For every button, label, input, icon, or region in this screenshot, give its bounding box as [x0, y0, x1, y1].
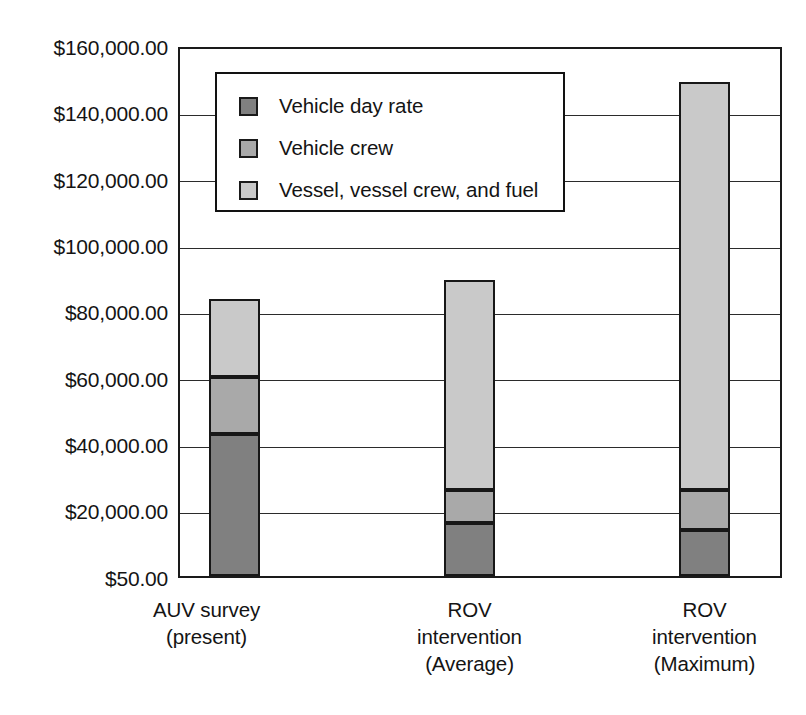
stacked-bar-chart: $160,000.00 $140,000.00 $120,000.00 $100… — [0, 0, 806, 715]
bar-rov-intervention-maximum — [679, 82, 730, 576]
legend-label: Vessel, vessel crew, and fuel — [279, 180, 538, 201]
x-category-line: AUV survey — [99, 596, 314, 623]
x-category-line: ROV — [362, 596, 577, 623]
legend-label: Vehicle crew — [279, 138, 393, 159]
legend-swatch-icon — [239, 181, 258, 200]
bar-segment-vehicle-crew — [679, 490, 730, 530]
y-tick-label: $40,000.00 — [28, 435, 168, 456]
x-category-label-auv-survey: AUV survey (present) — [99, 596, 314, 650]
x-category-line: intervention — [362, 623, 577, 650]
bar-segment-vehicle-crew — [444, 490, 495, 523]
y-tick-label: $80,000.00 — [28, 302, 168, 323]
bar-rov-intervention-average — [444, 280, 495, 576]
legend-item-vessel-crew-fuel: Vessel, vessel crew, and fuel — [217, 169, 563, 211]
bar-auv-survey — [209, 299, 260, 576]
y-tick-label: $160,000.00 — [28, 37, 168, 58]
bar-segment-vehicle-day-rate — [444, 523, 495, 576]
x-category-line: intervention — [597, 623, 806, 650]
legend-item-vehicle-day-rate: Vehicle day rate — [217, 85, 563, 127]
legend-item-vehicle-crew: Vehicle crew — [217, 127, 563, 169]
y-tick-label: $100,000.00 — [28, 236, 168, 257]
bar-segment-vessel-crew-fuel — [444, 280, 495, 491]
y-tick-label: $120,000.00 — [28, 170, 168, 191]
y-tick-label: $20,000.00 — [28, 501, 168, 522]
y-tick-label: $140,000.00 — [28, 103, 168, 124]
x-category-line: (Average) — [362, 650, 577, 677]
x-category-label-rov-average: ROV intervention (Average) — [362, 596, 577, 677]
x-category-line: (Maximum) — [597, 650, 806, 677]
x-category-line: ROV — [597, 596, 806, 623]
y-tick-label: $50.00 — [28, 568, 168, 589]
x-category-line: (present) — [99, 623, 314, 650]
x-category-label-rov-maximum: ROV intervention (Maximum) — [597, 596, 806, 677]
bar-segment-vehicle-day-rate — [209, 434, 260, 576]
y-tick-label: $60,000.00 — [28, 369, 168, 390]
legend-swatch-icon — [239, 139, 258, 158]
legend: Vehicle day rate Vehicle crew Vessel, ve… — [215, 72, 565, 212]
bar-segment-vessel-crew-fuel — [679, 82, 730, 490]
legend-swatch-icon — [239, 97, 258, 116]
bar-segment-vehicle-crew — [209, 377, 260, 435]
bar-segment-vessel-crew-fuel — [209, 299, 260, 376]
legend-label: Vehicle day rate — [279, 96, 423, 117]
bar-segment-vehicle-day-rate — [679, 530, 730, 576]
